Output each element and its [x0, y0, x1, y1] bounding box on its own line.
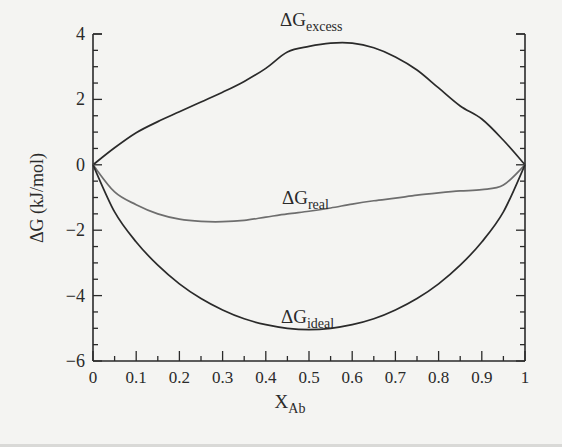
x-tick-label: 0: [89, 368, 98, 387]
curve-ideal: [93, 165, 525, 330]
x-tick-label: 1: [521, 368, 530, 387]
x-tick-label: 0.5: [298, 368, 319, 387]
x-tick-label: 0.2: [169, 368, 190, 387]
y-tick-label: −6: [66, 351, 85, 371]
y-tick-label: 4: [76, 24, 85, 44]
x-tick-label: 0.8: [428, 368, 449, 387]
curve-real: [93, 165, 525, 222]
x-tick-label: 0.6: [342, 368, 363, 387]
x-tick-label: 0.4: [255, 368, 277, 387]
y-tick-label: −2: [66, 220, 85, 240]
y-tick-label: −4: [66, 286, 85, 306]
x-tick-label: 0.7: [385, 368, 407, 387]
curve-excess: [93, 43, 525, 165]
y-tick-label: 0: [76, 155, 85, 175]
label-ideal: ΔGideal: [281, 306, 334, 331]
x-tick-label: 0.3: [212, 368, 233, 387]
y-tick-label: 2: [76, 89, 85, 109]
chart-canvas: −6−4−202400.10.20.30.40.50.60.70.80.91 Δ…: [0, 0, 562, 447]
label-excess: ΔGexcess: [280, 9, 343, 34]
label-real: ΔGreal: [282, 187, 329, 212]
delta-g-mixing-chart: −6−4−202400.10.20.30.40.50.60.70.80.91 Δ…: [0, 0, 562, 447]
x-tick-label: 0.1: [126, 368, 147, 387]
x-tick-label: 0.9: [471, 368, 492, 387]
curves: [93, 43, 525, 330]
y-axis-label: ΔG (kJ/mol): [27, 153, 48, 243]
x-axis-label: XAb: [275, 391, 306, 416]
